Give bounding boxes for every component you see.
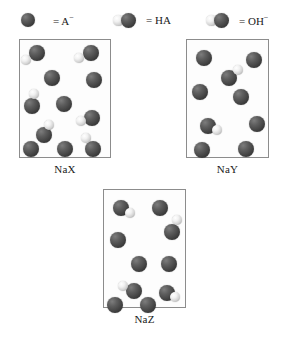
heavy-sphere-icon bbox=[121, 13, 136, 28]
anion-sphere bbox=[84, 110, 100, 126]
legend-item-anion: = A− bbox=[20, 10, 74, 30]
legend-item-label: = OH− bbox=[239, 13, 268, 27]
hydrogen-sphere bbox=[29, 89, 39, 99]
heavy-sphere-icon bbox=[214, 13, 229, 28]
hydrogen-sphere bbox=[74, 53, 84, 63]
anion-sphere bbox=[131, 256, 147, 272]
anion-sphere bbox=[126, 283, 142, 299]
hydrogen-sphere bbox=[118, 281, 128, 291]
hydrogen-sphere bbox=[233, 65, 243, 75]
hydrogen-sphere bbox=[81, 133, 91, 143]
light-left-dark-right-pair-icon bbox=[206, 11, 238, 29]
legend-item-label: = A− bbox=[53, 13, 74, 27]
anion-sphere bbox=[238, 141, 254, 157]
hydrogen-sphere bbox=[44, 120, 54, 130]
charge-superscript: − bbox=[264, 13, 269, 22]
anion-sphere bbox=[23, 141, 39, 157]
hydrogen-sphere bbox=[170, 292, 180, 302]
anion-sphere bbox=[83, 45, 99, 61]
legend-item-hydroxide: = OH− bbox=[206, 10, 268, 30]
anion-sphere bbox=[233, 89, 249, 105]
anion-sphere bbox=[44, 70, 60, 86]
diagram-canvas: = A−= HA= OH− NaXNaYNaZ bbox=[0, 0, 288, 346]
anion-sphere bbox=[161, 256, 177, 272]
legend-item-label: = HA bbox=[146, 14, 171, 26]
anion-sphere bbox=[140, 297, 156, 313]
anion-sphere bbox=[110, 232, 126, 248]
hydrogen-sphere bbox=[76, 116, 86, 126]
anion-sphere-icon bbox=[21, 13, 35, 27]
anion-sphere bbox=[57, 141, 73, 157]
single-dark-sphere-icon bbox=[20, 11, 52, 29]
anion-sphere bbox=[152, 200, 168, 216]
anion-sphere bbox=[164, 224, 180, 240]
anion-sphere bbox=[86, 72, 102, 88]
charge-superscript: − bbox=[69, 13, 74, 22]
box-label-nax: NaX bbox=[19, 163, 111, 175]
anion-sphere bbox=[24, 98, 40, 114]
hydrogen-sphere bbox=[172, 215, 182, 225]
light-left-dark-right-pair-icon bbox=[113, 11, 145, 29]
anion-sphere bbox=[56, 96, 72, 112]
anion-sphere bbox=[249, 116, 265, 132]
anion-sphere bbox=[107, 297, 123, 313]
anion-sphere bbox=[29, 45, 45, 61]
anion-sphere bbox=[85, 141, 101, 157]
hydrogen-sphere bbox=[125, 208, 135, 218]
anion-sphere bbox=[246, 52, 262, 68]
anion-sphere bbox=[194, 142, 210, 158]
box-label-nay: NaY bbox=[186, 163, 269, 175]
legend-item-acid: = HA bbox=[113, 10, 171, 30]
anion-sphere bbox=[196, 50, 212, 66]
hydrogen-sphere bbox=[212, 125, 222, 135]
anion-sphere bbox=[192, 84, 208, 100]
hydrogen-sphere bbox=[21, 55, 31, 65]
box-label-naz: NaZ bbox=[103, 313, 186, 325]
